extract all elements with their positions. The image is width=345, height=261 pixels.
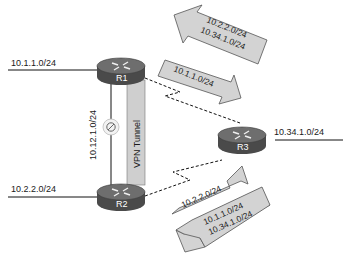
blocked-icon — [103, 119, 119, 135]
router-r2[interactable]: R2 — [97, 184, 145, 211]
router-r3[interactable]: R3 — [218, 127, 266, 154]
router-r1-label: R1 — [116, 73, 128, 83]
router-r2-label: R2 — [116, 199, 128, 209]
vpn-tunnel-label: VPN Tunnel — [132, 120, 142, 168]
advert-arrow-r3-to-r1: 10.2.2.0/24 10.34.1.0/24 — [174, 5, 267, 64]
router-r3-label: R3 — [237, 142, 249, 152]
router-r1[interactable]: R1 — [97, 58, 145, 85]
advert-arrow-r1-to-r3: 10.1.1.0/24 — [158, 60, 241, 104]
r1-r2-link-label: 10.12.1.0/24 — [88, 110, 98, 160]
r3-network-label: 10.34.1.0/24 — [274, 127, 324, 137]
r2-network-label: 10.2.2.0/24 — [11, 184, 56, 194]
r1-network-label: 10.1.1.0/24 — [11, 58, 56, 68]
network-diagram: VPN Tunnel 10.12.1.0/24 10.2.2.0/24 10.3… — [0, 0, 345, 261]
svg-text:10.2.2.0/24: 10.2.2.0/24 — [180, 183, 223, 210]
